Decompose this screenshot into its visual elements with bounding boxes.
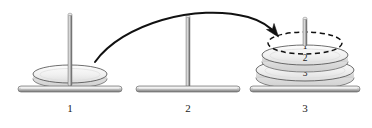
peg-1-group[interactable]: 1 bbox=[18, 13, 122, 114]
peg-3-group[interactable]: 3 2 1 3 bbox=[250, 17, 360, 114]
peg-1-label: 1 bbox=[67, 102, 73, 114]
move-arrow-path bbox=[95, 13, 276, 62]
peg-1-rod-cap bbox=[68, 13, 72, 15]
peg-3-rod[interactable] bbox=[303, 18, 307, 46]
hanoi-figure-canvas: 1 2 3 bbox=[0, 0, 372, 128]
peg-2-base bbox=[136, 86, 240, 92]
peg-2-rod[interactable] bbox=[186, 16, 190, 87]
hanoi-diagram: 1 2 3 bbox=[0, 0, 372, 128]
peg-2-group[interactable]: 2 bbox=[136, 15, 240, 114]
peg-1-base bbox=[18, 86, 122, 92]
peg-3-base bbox=[250, 86, 360, 92]
peg-3-label: 3 bbox=[302, 102, 308, 114]
peg-2-label: 2 bbox=[185, 102, 191, 114]
peg-1-rod[interactable] bbox=[68, 14, 72, 86]
peg-3-rod-cap bbox=[303, 17, 307, 19]
